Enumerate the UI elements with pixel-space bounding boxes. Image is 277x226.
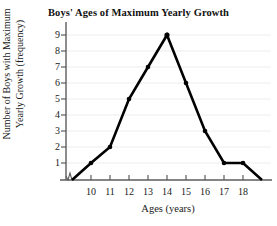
x-axis-ticks: [91, 175, 243, 180]
chart-figure: Boys' Ages of Maximum Yearly Growth Numb…: [0, 0, 277, 226]
data-point-age-14: [164, 32, 169, 37]
gridlines: [66, 35, 271, 163]
data-point-age-16: [203, 129, 208, 134]
data-point-age-13: [146, 65, 151, 70]
data-point-age-17: [222, 161, 227, 166]
data-point-age-11: [108, 145, 113, 150]
data-point-age-18: [241, 161, 246, 166]
data-point-age-15: [184, 81, 189, 86]
y-axis-ticks: [61, 35, 66, 163]
data-point-age-10: [89, 161, 94, 166]
data-point-age-12: [127, 97, 132, 102]
axis-break-icon: [66, 173, 72, 180]
plot-area: [0, 0, 277, 226]
frequency-polygon-line: [72, 35, 262, 180]
